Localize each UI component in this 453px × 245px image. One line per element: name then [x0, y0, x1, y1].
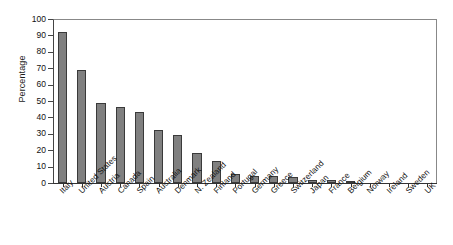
- bar-chart: Percentage 1009080706050403020100 ItalyU…: [0, 0, 453, 245]
- x-tick-label: UK: [423, 181, 437, 195]
- x-tick-label: Italy: [58, 178, 75, 195]
- x-axis-labels: ItalyUnited StatesAustriaCanadaSpainAust…: [0, 0, 453, 245]
